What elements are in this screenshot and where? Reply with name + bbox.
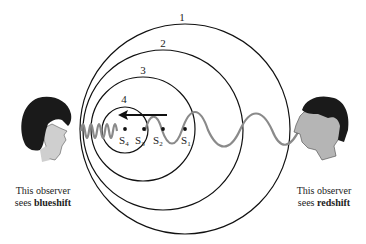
wavefront-label-4: 4 [121, 93, 127, 105]
left-caption-line2: sees blueshift [2, 197, 84, 209]
right-caption-line2: sees redshift [283, 197, 365, 209]
woman-profile-icon [21, 97, 71, 162]
doppler-diagram: 1 2 3 4 S1 S2 S3 S4 [0, 0, 366, 244]
source-dot-s3 [142, 127, 146, 131]
right-observer-caption: This observer sees redshift [283, 185, 365, 209]
wavefront-label-2: 2 [160, 37, 166, 49]
source-label-s3: S3 [135, 134, 145, 148]
source-label-s1: S1 [181, 134, 191, 148]
left-caption-prefix: sees [15, 197, 34, 208]
blueshift-label: blueshift [34, 197, 71, 208]
source-dot-s2 [161, 127, 165, 131]
wavefront-label-1: 1 [179, 11, 185, 23]
blueshift-wave [81, 124, 117, 138]
left-caption-line1: This observer [2, 185, 84, 197]
man-profile-icon [294, 97, 348, 161]
redshift-wave [145, 112, 300, 147]
motion-arrow [118, 110, 167, 120]
left-observer-caption: This observer sees blueshift [2, 185, 84, 209]
source-label-s4: S4 [119, 134, 129, 148]
redshift-label: redshift [317, 197, 350, 208]
source-dot-s1 [183, 127, 187, 131]
source-dot-s4 [123, 127, 127, 131]
right-caption-line1: This observer [283, 185, 365, 197]
right-caption-prefix: sees [298, 197, 317, 208]
source-label-s2: S2 [153, 134, 163, 148]
wavefront-label-3: 3 [140, 64, 146, 76]
